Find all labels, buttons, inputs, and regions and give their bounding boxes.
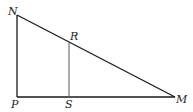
hypotenuse-nm bbox=[17, 15, 175, 97]
label-n: N bbox=[7, 5, 18, 18]
label-r: R bbox=[69, 30, 78, 43]
label-m: M bbox=[175, 93, 188, 106]
triangle-diagram: N P R S M bbox=[0, 0, 193, 112]
label-s: S bbox=[65, 98, 73, 111]
label-p: P bbox=[10, 98, 19, 111]
